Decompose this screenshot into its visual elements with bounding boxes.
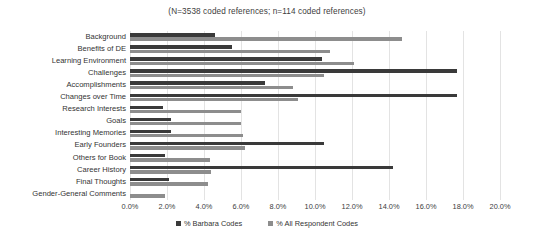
- legend-label-0: % Barbara Codes: [184, 219, 242, 228]
- value-axis-labels: 0.0%2.0%4.0%6.0%8.0%10.0%12.0%14.0%16.0%…: [0, 202, 534, 216]
- chart-title: (N=3538 coded references; n=114 coded re…: [0, 7, 534, 16]
- x-tick-label-0: 0.0%: [122, 202, 139, 211]
- category-label-3: Challenges: [88, 69, 126, 77]
- bar-barbara-4: [130, 81, 265, 84]
- x-tick-label-2: 4.0%: [196, 202, 213, 211]
- bar-all-respondents-10: [130, 158, 210, 161]
- bar-all-respondents-5: [130, 98, 298, 101]
- bar-barbara-8: [130, 130, 171, 133]
- x-tick-label-8: 16.0%: [416, 202, 437, 211]
- legend-swatch-icon-1: [268, 221, 273, 226]
- category-label-6: Research Interests: [62, 105, 126, 113]
- category-label-4: Accomplishments: [66, 81, 126, 89]
- plot-area: [130, 31, 500, 200]
- x-tick-label-1: 2.0%: [159, 202, 176, 211]
- bar-barbara-5: [130, 94, 457, 97]
- bar-barbara-6: [130, 106, 163, 109]
- category-label-12: Final Thoughts: [76, 178, 126, 186]
- bar-barbara-9: [130, 142, 324, 145]
- bar-all-respondents-8: [130, 134, 243, 137]
- bar-all-respondents-0: [130, 37, 402, 40]
- bar-all-respondents-11: [130, 170, 211, 173]
- x-tick-label-6: 12.0%: [342, 202, 363, 211]
- legend-item-0[interactable]: % Barbara Codes: [176, 219, 242, 228]
- bar-barbara-10: [130, 154, 165, 157]
- bar-all-respondents-7: [130, 122, 241, 125]
- category-label-13: Gender-General Comments: [32, 190, 126, 198]
- category-label-0: Background: [85, 33, 126, 41]
- bar-barbara-0: [130, 33, 215, 36]
- bar-barbara-2: [130, 57, 322, 60]
- category-label-2: Learning Environment: [52, 57, 126, 65]
- bar-all-respondents-1: [130, 50, 330, 53]
- legend-label-1: % All Respondent Codes: [276, 219, 358, 228]
- bar-barbara-11: [130, 166, 393, 169]
- bar-chart: (N=3538 coded references; n=114 coded re…: [0, 0, 534, 242]
- gridline-18-0%: [463, 31, 464, 200]
- x-tick-label-4: 8.0%: [270, 202, 287, 211]
- category-label-7: Goals: [106, 117, 126, 125]
- bar-barbara-1: [130, 45, 232, 48]
- category-label-11: Career History: [77, 166, 126, 174]
- category-axis-labels: BackgroundBenefits of DELearning Environ…: [0, 31, 126, 200]
- chart-legend: % Barbara Codes% All Respondent Codes: [0, 219, 534, 228]
- category-label-8: Interesting Memories: [55, 129, 126, 137]
- legend-swatch-icon-0: [176, 221, 181, 226]
- gridline-16-0%: [426, 31, 427, 200]
- bar-barbara-7: [130, 118, 171, 121]
- x-tick-label-9: 18.0%: [453, 202, 474, 211]
- bar-all-respondents-2: [130, 62, 354, 65]
- x-tick-label-3: 6.0%: [233, 202, 250, 211]
- x-tick-label-10: 20.0%: [490, 202, 511, 211]
- x-tick-label-5: 10.0%: [305, 202, 326, 211]
- bar-barbara-12: [130, 178, 169, 181]
- x-tick-label-7: 14.0%: [379, 202, 400, 211]
- bar-all-respondents-12: [130, 182, 208, 185]
- bar-all-respondents-9: [130, 146, 245, 149]
- gridline-20-0%: [500, 31, 501, 200]
- category-label-9: Early Founders: [75, 141, 127, 149]
- legend-item-1[interactable]: % All Respondent Codes: [268, 219, 358, 228]
- bar-all-respondents-3: [130, 74, 324, 77]
- bar-all-respondents-6: [130, 110, 241, 113]
- category-label-5: Changes over Time: [60, 93, 126, 101]
- bar-all-respondents-13: [130, 194, 165, 197]
- bar-all-respondents-4: [130, 86, 293, 89]
- gridline-14-0%: [389, 31, 390, 200]
- category-label-1: Benefits of DE: [77, 45, 126, 53]
- bar-barbara-3: [130, 69, 457, 72]
- gridline-12-0%: [352, 31, 353, 200]
- category-label-10: Others for Book: [73, 154, 126, 162]
